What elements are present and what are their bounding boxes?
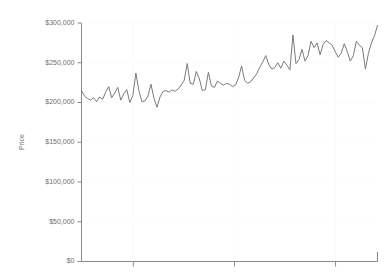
y-tick-label: $50,000: [49, 218, 74, 225]
y-tick-label: $100,000: [45, 178, 74, 185]
line-chart: $0$50,000$100,000$150,000$200,000$250,00…: [0, 0, 385, 276]
chart-canvas: $0$50,000$100,000$150,000$200,000$250,00…: [0, 0, 385, 276]
y-tick-label: $200,000: [45, 98, 74, 105]
y-tick-label: $250,000: [45, 59, 74, 66]
y-axis-title: Price: [18, 134, 25, 150]
y-tick-label: $0: [67, 257, 75, 264]
y-tick-label: $150,000: [45, 138, 74, 145]
y-tick-label: $300,000: [45, 19, 74, 26]
